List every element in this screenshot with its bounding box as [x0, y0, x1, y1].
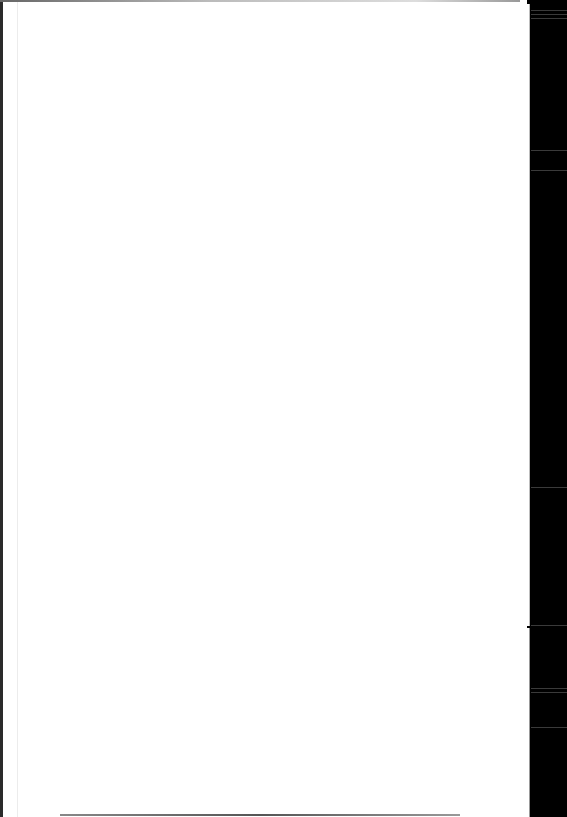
scan-artifact-line [531, 625, 567, 626]
blank-page [3, 2, 520, 815]
page-fold-line [17, 0, 18, 817]
page-left-edge [0, 0, 3, 817]
scan-artifact-line [531, 692, 567, 693]
scan-artifact-line [531, 18, 567, 19]
page-bottom-edge [60, 814, 460, 816]
page-top-edge [0, 0, 520, 2]
scan-artifact-line [531, 14, 567, 15]
scan-artifact-line [531, 688, 567, 689]
scan-artifact-line [531, 150, 567, 151]
page-right-edge [519, 4, 530, 626]
scan-artifact-line [531, 10, 567, 11]
scan-artifact-line [531, 487, 567, 488]
scan-artifact-line [531, 170, 567, 171]
scan-artifact-line [531, 727, 567, 728]
scanner-black-margin [527, 0, 567, 817]
page-right-edge-lower [519, 628, 530, 817]
